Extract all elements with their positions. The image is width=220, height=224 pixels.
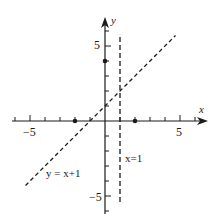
x-tick-label-neg5: −5 [23,125,36,139]
line1-label: y = x+1 [46,167,80,179]
plotted-point [73,119,78,124]
plotted-point [103,59,108,64]
x-axis-label: x [198,103,204,115]
y-axis-label: y [110,14,116,26]
plotted-point [133,119,138,124]
line2-label: x=1 [125,152,142,164]
coordinate-plane: x y −5 5 5 −5 y = x+1 x=1 [0,0,220,224]
y-tick-label-neg5: −5 [89,190,102,204]
x-tick-label-5: 5 [176,125,182,139]
y-tick-label-5: 5 [94,38,100,52]
line-y-equals-x-plus-1 [26,36,176,186]
